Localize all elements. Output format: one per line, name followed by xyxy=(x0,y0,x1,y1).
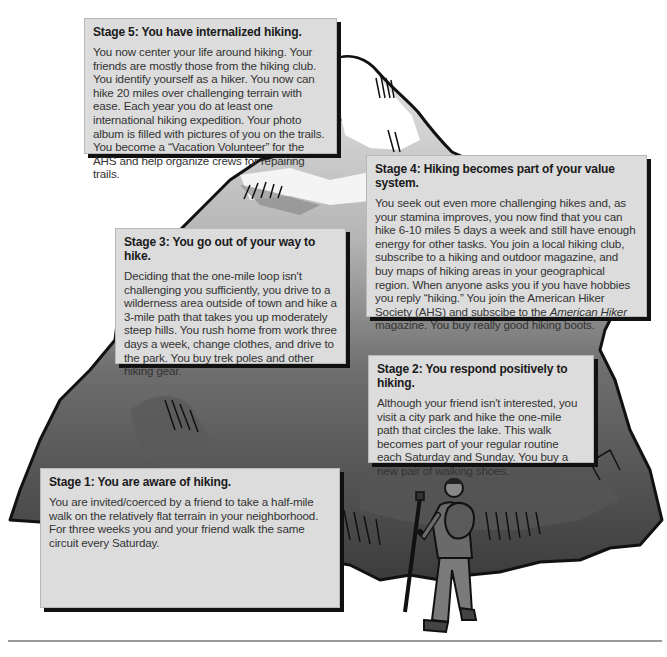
stage-5-body: You now center your life around hiking. … xyxy=(93,45,328,181)
stage-4-body-text: You seek out even more challenging hikes… xyxy=(375,196,635,318)
stage-1-body: You are invited/coerced by a friend to t… xyxy=(49,495,331,549)
stage-5-box: Stage 5: You have internalized hiking. Y… xyxy=(84,18,337,154)
magazine-title: American Hiker xyxy=(550,305,627,318)
stage-4-title: Stage 4: Hiking becomes part of your val… xyxy=(375,162,638,190)
stage-1-box: Stage 1: You are aware of hiking. You ar… xyxy=(40,468,340,608)
stage-2-title: Stage 2: You respond positively to hikin… xyxy=(377,362,585,390)
stage-3-body: Deciding that the one-mile loop isn't ch… xyxy=(124,269,337,378)
stage-4-body-text-end: magazine. You buy really good hiking boo… xyxy=(375,318,595,331)
stage-3-title: Stage 3: You go out of your way to hike. xyxy=(124,235,337,263)
stage-4-body: You seek out even more challenging hikes… xyxy=(375,196,638,332)
stage-3-box: Stage 3: You go out of your way to hike.… xyxy=(115,228,346,364)
stage-2-body: Although your friend isn't interested, y… xyxy=(377,396,585,478)
bottom-divider xyxy=(8,640,662,642)
stage-4-box: Stage 4: Hiking becomes part of your val… xyxy=(366,155,647,317)
stage-2-box: Stage 2: You respond positively to hikin… xyxy=(368,355,594,463)
stage-1-title: Stage 1: You are aware of hiking. xyxy=(49,475,331,489)
stage-5-title: Stage 5: You have internalized hiking. xyxy=(93,25,328,39)
